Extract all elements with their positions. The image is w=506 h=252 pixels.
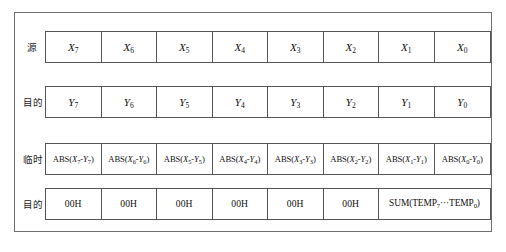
- cell-text: ABS(X6-Y6): [108, 155, 149, 164]
- cell-group-source: X7 X6 X5 X4 X3 X2 X1 X0: [45, 31, 491, 63]
- cell-text: 00H: [120, 199, 137, 209]
- cell-destination-y2: Y2: [324, 87, 380, 117]
- cell-source-x4: X4: [213, 32, 269, 62]
- cell-source-x5: X5: [157, 32, 213, 62]
- cell-result-00h-1: 00H: [46, 189, 102, 219]
- cell-group-temporary: ABS(X7-Y7) ABS(X6-Y6) ABS(X5-Y5) ABS(X4-…: [45, 143, 491, 175]
- cell-destination-y5: Y5: [157, 87, 213, 117]
- cell-temp-abs-4: ABS(X4-Y4): [213, 144, 269, 174]
- cell-result-00h-2: 00H: [102, 189, 158, 219]
- diagram-rows-area: 源 X7 X6 X5 X4 X3 X2 X1 X0 目的 Y7 Y6 Y5 Y4…: [0, 0, 506, 252]
- cell-text: Y4: [235, 97, 245, 108]
- cell-text: 00H: [287, 199, 304, 209]
- cell-text: X5: [179, 42, 189, 53]
- cell-temp-abs-1: ABS(X1-Y1): [379, 144, 435, 174]
- cell-text: X3: [290, 42, 300, 53]
- cell-text: X0: [457, 42, 467, 53]
- cell-text: X2: [346, 42, 356, 53]
- cell-temp-abs-6: ABS(X6-Y6): [102, 144, 158, 174]
- cell-destination-y0: Y0: [435, 87, 491, 117]
- cell-source-x6: X6: [102, 32, 158, 62]
- cell-result-sum: SUM(TEMP7···TEMP0): [379, 189, 490, 219]
- cell-text: Y7: [68, 97, 78, 108]
- cell-text: X1: [401, 42, 411, 53]
- cell-result-00h-5: 00H: [268, 189, 324, 219]
- cell-text: ABS(X1-Y1): [386, 155, 427, 164]
- cell-text: 00H: [65, 199, 82, 209]
- row-label-source: 源: [22, 42, 42, 53]
- cell-text: Y3: [290, 97, 300, 108]
- cell-text: Y6: [124, 97, 134, 108]
- cell-text: ABS(X0-Y0): [442, 155, 483, 164]
- diagram-row-destination-top: 目的 Y7 Y6 Y5 Y4 Y3 Y2 Y1 Y0: [22, 85, 491, 119]
- row-label-destination-top: 目的: [22, 97, 44, 108]
- cell-text: Y1: [401, 97, 411, 108]
- cell-text: Y5: [179, 97, 189, 108]
- cell-text: X4: [235, 42, 245, 53]
- cell-group-destination-top: Y7 Y6 Y5 Y4 Y3 Y2 Y1 Y0: [45, 86, 491, 118]
- cell-text: ABS(X4-Y4): [219, 155, 260, 164]
- cell-result-00h-4: 00H: [213, 189, 269, 219]
- diagram-row-source: 源 X7 X6 X5 X4 X3 X2 X1 X0: [22, 30, 491, 64]
- cell-temp-abs-3: ABS(X3-Y3): [268, 144, 324, 174]
- cell-destination-y7: Y7: [46, 87, 102, 117]
- cell-text: Y0: [457, 97, 467, 108]
- cell-source-x2: X2: [324, 32, 380, 62]
- cell-destination-y6: Y6: [102, 87, 158, 117]
- row-label-temporary: 临时: [22, 154, 44, 165]
- cell-text: SUM(TEMP7···TEMP0): [389, 199, 480, 208]
- cell-source-x0: X0: [435, 32, 491, 62]
- cell-temp-abs-7: ABS(X7-Y7): [46, 144, 102, 174]
- cell-temp-abs-5: ABS(X5-Y5): [157, 144, 213, 174]
- cell-destination-y1: Y1: [379, 87, 435, 117]
- cell-text: Y2: [346, 97, 356, 108]
- row-label-destination-bottom: 目的: [22, 199, 44, 210]
- cell-temp-abs-2: ABS(X2-Y2): [324, 144, 380, 174]
- cell-text: X6: [124, 42, 134, 53]
- cell-destination-y3: Y3: [268, 87, 324, 117]
- cell-text: X7: [68, 42, 78, 53]
- cell-source-x3: X3: [268, 32, 324, 62]
- diagram-row-temporary: 临时 ABS(X7-Y7) ABS(X6-Y6) ABS(X5-Y5) ABS(…: [22, 142, 491, 176]
- cell-source-x7: X7: [46, 32, 102, 62]
- diagram-root: 源 X7 X6 X5 X4 X3 X2 X1 X0 目的 Y7 Y6 Y5 Y4…: [0, 0, 506, 252]
- cell-source-x1: X1: [379, 32, 435, 62]
- cell-result-00h-3: 00H: [157, 189, 213, 219]
- diagram-row-destination-bottom: 目的 00H 00H 00H 00H 00H 00H SUM(TEMP7···T…: [22, 187, 491, 221]
- cell-text: 00H: [176, 199, 193, 209]
- cell-text: ABS(X2-Y2): [330, 155, 371, 164]
- cell-group-destination-bottom: 00H 00H 00H 00H 00H 00H SUM(TEMP7···TEMP…: [45, 188, 491, 220]
- cell-text: 00H: [342, 199, 359, 209]
- cell-destination-y4: Y4: [213, 87, 269, 117]
- cell-result-00h-6: 00H: [324, 189, 380, 219]
- cell-text: ABS(X3-Y3): [275, 155, 316, 164]
- cell-text: 00H: [231, 199, 248, 209]
- cell-text: ABS(X5-Y5): [164, 155, 205, 164]
- cell-text: ABS(X7-Y7): [53, 155, 94, 164]
- cell-temp-abs-0: ABS(X0-Y0): [435, 144, 491, 174]
